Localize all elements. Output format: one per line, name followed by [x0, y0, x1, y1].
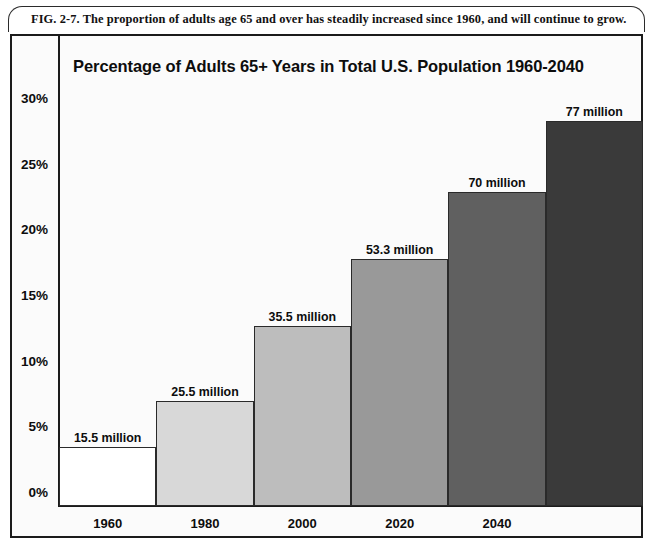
- y-axis-tick-label: 10%: [21, 353, 48, 368]
- y-axis-line: [58, 36, 60, 507]
- x-axis-tick-label: 1980: [191, 516, 220, 531]
- x-axis-tick-label: 2020: [385, 516, 414, 531]
- bar: 25.5 million: [156, 401, 253, 506]
- figure-caption-box: FIG. 2-7. The proportion of adults age 6…: [8, 6, 645, 32]
- bar-data-label: 53.3 million: [366, 243, 433, 257]
- bar: 35.5 million: [254, 326, 351, 506]
- bar-data-label: 15.5 million: [74, 431, 141, 445]
- bar: 70 million: [448, 192, 545, 506]
- y-axis-tick-label: 15%: [21, 288, 48, 303]
- y-axis-tick-label: 5%: [28, 419, 48, 434]
- figure-root: FIG. 2-7. The proportion of adults age 6…: [0, 0, 653, 546]
- y-axis-tick-label: 30%: [21, 91, 48, 106]
- chart-title: Percentage of Adults 65+ Years in Total …: [12, 57, 645, 76]
- bar: 53.3 million: [351, 259, 448, 506]
- x-axis-tick-label: 2000: [288, 516, 317, 531]
- bar-data-label: 70 million: [468, 176, 525, 190]
- bar: 15.5 million: [59, 447, 156, 506]
- y-axis-tick-label: 25%: [21, 156, 48, 171]
- y-axis-tick-label: 20%: [21, 222, 48, 237]
- figure-caption-text: FIG. 2-7. The proportion of adults age 6…: [31, 12, 627, 27]
- x-axis-tick-label: 2040: [483, 516, 512, 531]
- bar-data-label: 35.5 million: [269, 310, 336, 324]
- bar-data-label: 77 million: [566, 105, 623, 119]
- plot-area: 0%5%10%15%20%25%30% 15.5 million25.5 mil…: [59, 96, 643, 507]
- bar-data-label: 25.5 million: [171, 385, 238, 399]
- bar: 77 million: [546, 121, 643, 506]
- chart-panel: Percentage of Adults 65+ Years in Total …: [10, 34, 643, 538]
- x-axis-tick-label: 1960: [93, 516, 122, 531]
- y-axis-tick-label: 0%: [28, 485, 48, 500]
